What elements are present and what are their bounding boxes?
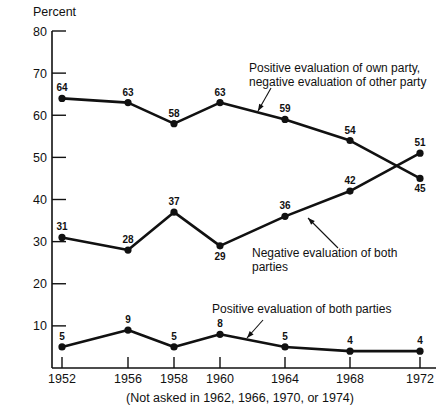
data-point bbox=[216, 331, 223, 338]
series-line-1 bbox=[62, 153, 420, 250]
y-tick-label-40: 40 bbox=[33, 193, 47, 207]
annot-own-party-leader bbox=[258, 88, 271, 111]
data-point-label: 59 bbox=[279, 103, 291, 114]
data-point bbox=[170, 120, 177, 127]
x-axis-ticks: 1952195619581960196419681972 bbox=[48, 357, 434, 386]
line-chart-figure: Percent 1020304050607080 195219561958196… bbox=[0, 0, 442, 414]
data-point-label: 4 bbox=[417, 335, 423, 346]
data-point bbox=[216, 242, 223, 249]
data-point-label: 5 bbox=[59, 331, 65, 342]
data-point-label: 4 bbox=[347, 335, 353, 346]
data-point-label: 42 bbox=[344, 175, 356, 186]
data-point-label: 45 bbox=[414, 183, 426, 194]
chart-footnote: (Not asked in 1962, 1966, 1970, or 1974) bbox=[126, 391, 354, 405]
data-point bbox=[170, 209, 177, 216]
y-tick-label-70: 70 bbox=[33, 67, 47, 81]
data-point-label: 29 bbox=[214, 251, 226, 262]
data-point bbox=[346, 137, 353, 144]
chart-container: Percent 1020304050607080 195219561958196… bbox=[0, 0, 442, 414]
data-point-label: 5 bbox=[282, 331, 288, 342]
data-point-label: 37 bbox=[168, 196, 180, 207]
y-tick-label-10: 10 bbox=[33, 319, 47, 333]
data-point bbox=[281, 343, 288, 350]
data-point bbox=[216, 99, 223, 106]
data-point bbox=[281, 116, 288, 123]
data-point-label: 63 bbox=[214, 87, 226, 98]
annotation-own-party-line1: Positive evaluation of own party, bbox=[249, 61, 420, 75]
data-point-label: 28 bbox=[122, 234, 134, 245]
y-axis-ticks: 1020304050607080 bbox=[33, 25, 66, 334]
series-line-0 bbox=[62, 98, 420, 178]
y-tick-label-50: 50 bbox=[33, 151, 47, 165]
data-point-label: 5 bbox=[171, 331, 177, 342]
x-tick-label-1952: 1952 bbox=[48, 372, 76, 386]
x-tick-label-1968: 1968 bbox=[336, 372, 364, 386]
x-tick-label-1960: 1960 bbox=[206, 372, 234, 386]
data-point bbox=[58, 95, 65, 102]
y-tick-label-80: 80 bbox=[33, 25, 47, 39]
annotation-negative-both: Negative evaluation of both parties bbox=[252, 246, 397, 274]
data-point bbox=[58, 343, 65, 350]
data-point-label: 36 bbox=[279, 200, 291, 211]
data-point bbox=[124, 246, 131, 253]
data-point-label: 63 bbox=[122, 87, 134, 98]
data-point bbox=[416, 348, 423, 355]
y-tick-label-60: 60 bbox=[33, 109, 47, 123]
data-point-label: 8 bbox=[217, 318, 223, 329]
x-tick-label-1972: 1972 bbox=[406, 372, 434, 386]
x-tick-label-1964: 1964 bbox=[271, 372, 299, 386]
data-point bbox=[416, 150, 423, 157]
data-point bbox=[281, 213, 288, 220]
data-point bbox=[170, 343, 177, 350]
data-point-label: 31 bbox=[56, 221, 68, 232]
annot-positive-both-leader bbox=[247, 320, 263, 338]
annotation-positive-both: Positive evaluation of both parties bbox=[212, 302, 391, 316]
data-point bbox=[346, 348, 353, 355]
annotation-negative-both-line2: parties bbox=[252, 260, 288, 274]
data-point-label: 64 bbox=[56, 82, 68, 93]
data-point bbox=[124, 326, 131, 333]
data-point bbox=[346, 187, 353, 194]
series-line-2 bbox=[62, 330, 420, 351]
annotation-own-party-line2: negative evaluation of other party bbox=[249, 75, 426, 89]
data-point-label: 51 bbox=[414, 137, 426, 148]
arrow-head-icon bbox=[258, 104, 264, 111]
annotation-negative-both-line1: Negative evaluation of both bbox=[252, 246, 397, 260]
data-point bbox=[58, 234, 65, 241]
y-axis-title: Percent bbox=[33, 5, 77, 19]
data-point-label: 9 bbox=[125, 314, 131, 325]
data-point-label: 58 bbox=[168, 108, 180, 119]
y-tick-label-30: 30 bbox=[33, 235, 47, 249]
data-point bbox=[124, 99, 131, 106]
x-tick-label-1958: 1958 bbox=[160, 372, 188, 386]
annot-negative-both-leader bbox=[308, 218, 338, 248]
x-tick-label-1956: 1956 bbox=[114, 372, 142, 386]
annotation-own-party: Positive evaluation of own party, negati… bbox=[249, 61, 426, 89]
y-tick-label-20: 20 bbox=[33, 277, 47, 291]
data-point bbox=[416, 175, 423, 182]
annotation-positive-both-line1: Positive evaluation of both parties bbox=[212, 302, 391, 316]
data-point-label: 54 bbox=[344, 125, 356, 136]
